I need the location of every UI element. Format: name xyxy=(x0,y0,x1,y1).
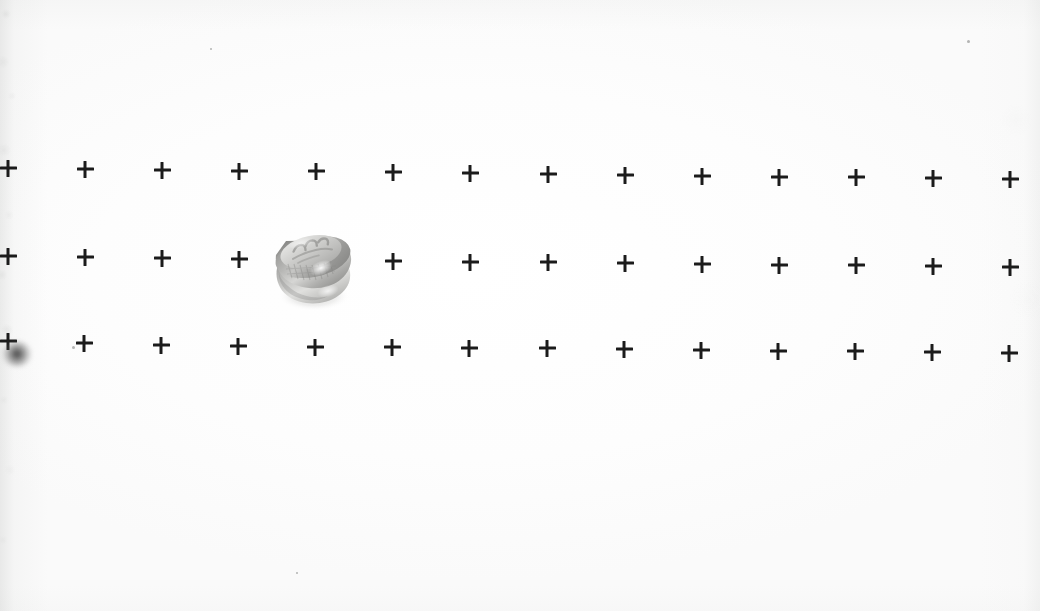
cross-bar-vertical xyxy=(392,164,395,181)
cross-bar-vertical xyxy=(7,248,10,265)
cross-bar-vertical xyxy=(701,168,704,185)
cross-bar-vertical xyxy=(1009,171,1012,188)
cross-bar-vertical xyxy=(84,249,87,266)
fiducial-cross xyxy=(230,338,247,355)
cross-bar-vertical xyxy=(83,335,86,352)
fiducial-cross xyxy=(924,344,941,361)
fiducial-cross xyxy=(153,337,170,354)
speck-c-artifact xyxy=(210,48,212,50)
speck-a-artifact xyxy=(72,346,75,349)
cross-bar-vertical xyxy=(238,163,241,180)
cross-bar-vertical xyxy=(391,339,394,356)
fiducial-cross xyxy=(385,253,402,270)
fiducial-cross xyxy=(617,167,634,184)
fiducial-cross xyxy=(0,333,17,350)
fiducial-cross xyxy=(539,340,556,357)
cross-bar-vertical xyxy=(546,340,549,357)
fiducial-cross xyxy=(77,249,94,266)
fiducial-cross xyxy=(770,343,787,360)
fiducial-cross xyxy=(540,166,557,183)
fiducial-cross xyxy=(848,169,865,186)
paper-grain-texture xyxy=(0,0,1040,611)
fiducial-cross xyxy=(540,254,557,271)
cross-bar-vertical xyxy=(854,343,857,360)
cross-bar-vertical xyxy=(314,339,317,356)
fiducial-cross xyxy=(771,169,788,186)
cross-bar-vertical xyxy=(84,161,87,178)
fiducial-cross xyxy=(0,248,17,265)
cross-bar-vertical xyxy=(160,337,163,354)
fiducial-cross xyxy=(461,340,478,357)
cross-bar-vertical xyxy=(931,344,934,361)
cross-bar-vertical xyxy=(547,166,550,183)
fiducial-cross xyxy=(154,162,171,179)
fiducial-cross xyxy=(1002,259,1019,276)
fiducial-cross xyxy=(616,341,633,358)
cross-bar-vertical xyxy=(547,254,550,271)
fiducial-cross xyxy=(462,165,479,182)
fiducial-cross xyxy=(307,339,324,356)
metal-cap-object xyxy=(266,228,358,314)
cross-bar-vertical xyxy=(237,338,240,355)
cross-bar-vertical xyxy=(701,256,704,273)
fiducial-cross xyxy=(1002,171,1019,188)
fiducial-cross xyxy=(1001,345,1018,362)
cross-bar-vertical xyxy=(469,165,472,182)
fiducial-cross xyxy=(384,339,401,356)
cross-bar-vertical xyxy=(468,340,471,357)
cross-bar-vertical xyxy=(932,258,935,275)
cross-bar-vertical xyxy=(855,169,858,186)
cross-bar-vertical xyxy=(624,167,627,184)
cross-bar-vertical xyxy=(778,257,781,274)
cross-bar-vertical xyxy=(855,257,858,274)
cross-bar-vertical xyxy=(392,253,395,270)
fiducial-cross xyxy=(0,160,17,177)
cross-bar-vertical xyxy=(238,251,241,268)
speck-d-artifact xyxy=(296,572,298,574)
cross-bar-vertical xyxy=(624,255,627,272)
fiducial-cross xyxy=(77,161,94,178)
cross-bar-vertical xyxy=(1009,259,1012,276)
fiducial-cross xyxy=(231,163,248,180)
fiducial-cross xyxy=(771,257,788,274)
fiducial-cross xyxy=(308,163,325,180)
cross-bar-vertical xyxy=(7,160,10,177)
fiducial-cross xyxy=(925,170,942,187)
cross-bar-vertical xyxy=(315,163,318,180)
cross-bar-vertical xyxy=(700,342,703,359)
cross-bar-vertical xyxy=(7,333,10,350)
fiducial-cross xyxy=(847,343,864,360)
speck-b-artifact xyxy=(967,40,970,43)
photograph-canvas xyxy=(0,0,1040,611)
fiducial-cross xyxy=(848,257,865,274)
fiducial-cross xyxy=(385,164,402,181)
cross-bar-vertical xyxy=(777,343,780,360)
fiducial-cross xyxy=(154,250,171,267)
fiducial-cross xyxy=(617,255,634,272)
fiducial-cross xyxy=(231,251,248,268)
fiducial-cross xyxy=(694,168,711,185)
cross-bar-vertical xyxy=(469,254,472,271)
cross-bar-vertical xyxy=(1008,345,1011,362)
cross-bar-vertical xyxy=(932,170,935,187)
fiducial-cross xyxy=(76,335,93,352)
fiducial-cross xyxy=(925,258,942,275)
cross-bar-vertical xyxy=(161,162,164,179)
cross-bar-vertical xyxy=(161,250,164,267)
fiducial-cross xyxy=(694,256,711,273)
cross-bar-vertical xyxy=(778,169,781,186)
cross-bar-vertical xyxy=(623,341,626,358)
fiducial-cross xyxy=(462,254,479,271)
fiducial-cross xyxy=(693,342,710,359)
